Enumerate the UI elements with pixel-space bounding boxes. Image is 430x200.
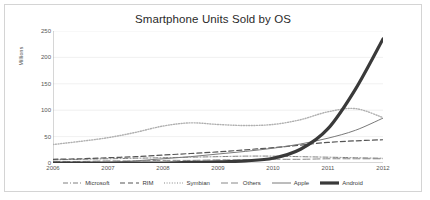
y-tick-label: 250 bbox=[25, 28, 51, 34]
x-tick-label: 2012 bbox=[376, 165, 389, 171]
x-tick-label: 2006 bbox=[46, 165, 59, 171]
x-tick-label: 2007 bbox=[101, 165, 114, 171]
legend-swatch-rim bbox=[120, 179, 139, 187]
legend-label: Symbian bbox=[186, 180, 209, 186]
chart-container: Smartphone Units Sold by OS Millions 050… bbox=[4, 4, 422, 192]
series-line-symbian bbox=[53, 108, 383, 144]
x-tick-label: 2011 bbox=[322, 165, 335, 171]
legend-label: Others bbox=[243, 180, 261, 186]
y-tick-label: 100 bbox=[25, 107, 51, 113]
legend-swatch-android bbox=[320, 179, 339, 187]
legend-label: Android bbox=[342, 180, 363, 186]
x-tick-label: 2010 bbox=[266, 165, 279, 171]
legend-swatch-apple bbox=[272, 179, 291, 187]
legend-item-apple[interactable]: Apple bbox=[272, 179, 309, 187]
y-axis-ticks: 050100150200250 bbox=[19, 31, 51, 163]
chart-legend: MicrosoftRIMSymbianOthersAppleAndroid bbox=[5, 179, 421, 187]
legend-swatch-symbian bbox=[164, 179, 183, 187]
legend-item-others[interactable]: Others bbox=[221, 179, 261, 187]
legend-swatch-others bbox=[221, 179, 240, 187]
plot-area bbox=[53, 31, 383, 163]
legend-label: Apple bbox=[294, 180, 309, 186]
legend-item-android[interactable]: Android bbox=[320, 179, 363, 187]
legend-item-microsoft[interactable]: Microsoft bbox=[63, 179, 109, 187]
legend-item-rim[interactable]: RIM bbox=[120, 179, 153, 187]
x-tick-label: 2008 bbox=[156, 165, 169, 171]
y-tick-label: 50 bbox=[25, 133, 51, 139]
series-lines bbox=[53, 31, 383, 163]
y-tick-label: 200 bbox=[25, 54, 51, 60]
y-tick-label: 150 bbox=[25, 81, 51, 87]
x-tick-label: 2009 bbox=[211, 165, 224, 171]
x-axis-ticks: 2006200720082009201020112012 bbox=[53, 165, 383, 177]
legend-swatch-microsoft bbox=[63, 179, 82, 187]
legend-label: Microsoft bbox=[85, 180, 109, 186]
legend-item-symbian[interactable]: Symbian bbox=[164, 179, 209, 187]
chart-title: Smartphone Units Sold by OS bbox=[5, 13, 421, 25]
legend-label: RIM bbox=[142, 180, 153, 186]
